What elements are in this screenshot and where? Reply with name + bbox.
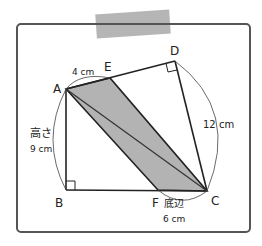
base-value: 6 cm <box>163 214 185 224</box>
geometry-figure: A B C D E F 4 cm 12 cm 高さ 9 cm 底辺 6 cm <box>0 0 262 246</box>
edge-bc <box>66 190 207 191</box>
label-e: E <box>104 60 112 74</box>
arc-ab <box>53 89 66 190</box>
label-a: A <box>53 82 62 96</box>
label-b: B <box>55 196 63 210</box>
label-f: F <box>152 196 159 210</box>
right-angle-b <box>66 181 75 190</box>
height-value: 9 cm <box>30 144 52 154</box>
height-label: 高さ <box>30 126 52 140</box>
measure-ae: 4 cm <box>72 67 94 77</box>
label-d: D <box>170 44 179 58</box>
base-label: 底辺 <box>164 197 184 209</box>
measure-dc: 12 cm <box>203 119 234 130</box>
label-c: C <box>211 194 219 208</box>
shaded-region-aecf <box>66 78 207 191</box>
